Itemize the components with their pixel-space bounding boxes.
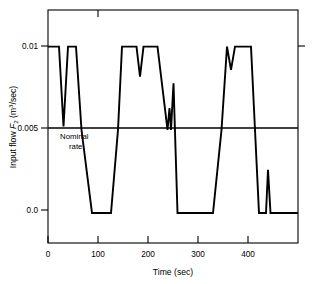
data-series-input-flow — [48, 47, 298, 213]
y-axis-title: Input flow F2 (m3/sec) — [7, 86, 19, 169]
y-tick-label-1: 0.005 — [18, 124, 39, 133]
x-tick-label-3: 300 — [191, 250, 205, 259]
x-axis-ticks — [48, 236, 248, 243]
chart-figure: 0.01 0.005 0.0 0 100 200 300 400 Time (s… — [0, 0, 321, 284]
x-axis-title: Time (sec) — [153, 267, 193, 277]
nominal-rate-label-line1: Nominal — [60, 132, 89, 141]
x-tick-label-4: 400 — [241, 250, 255, 259]
plot-frame — [48, 10, 298, 243]
y-axis-ticks — [41, 46, 48, 210]
chart-svg: 0.01 0.005 0.0 0 100 200 300 400 Time (s… — [0, 0, 321, 284]
y-axis-title-units-close: /sec) — [8, 86, 18, 105]
nominal-rate-label-line2: rate — [69, 142, 82, 151]
x-tick-label-1: 100 — [91, 250, 105, 259]
x-tick-label-0: 0 — [46, 250, 51, 259]
y-axis-title-lead: Input flow — [8, 129, 18, 168]
x-tick-label-2: 200 — [141, 250, 155, 259]
y-axis-title-units-open: (m — [8, 108, 18, 120]
y-tick-label-0: 0.0 — [27, 206, 39, 215]
y-tick-label-2: 0.01 — [22, 42, 38, 51]
